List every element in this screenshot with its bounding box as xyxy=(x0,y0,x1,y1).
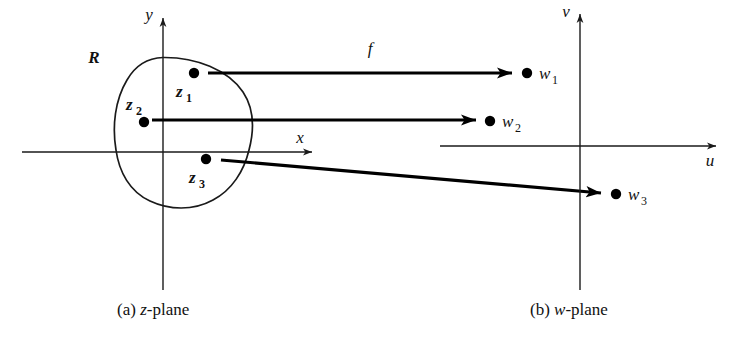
region-R-outline xyxy=(114,57,252,208)
arrow-z3-to-w3 xyxy=(221,160,601,193)
point-w2-label: w 2 xyxy=(502,112,521,135)
point-w3-dot xyxy=(611,189,621,199)
svg-text:z: z xyxy=(175,82,183,101)
svg-text:z: z xyxy=(188,168,196,187)
svg-text:3: 3 xyxy=(199,177,205,191)
point-z2-label: z 2 xyxy=(125,95,142,118)
w-plane-u-axis-label: u xyxy=(706,151,715,170)
svg-text:(b) w-plane: (b) w-plane xyxy=(530,300,608,319)
point-w3-label: w 3 xyxy=(628,185,647,208)
caption-b-rest: -plane xyxy=(565,300,607,319)
svg-text:(a) z-plane: (a) z-plane xyxy=(117,300,189,319)
svg-text:z: z xyxy=(125,95,133,114)
svg-text:w: w xyxy=(539,64,551,83)
caption-b-italic: w xyxy=(554,300,566,319)
point-w2-dot xyxy=(485,116,495,126)
caption-z-plane: (a) z-plane xyxy=(117,300,189,319)
point-z1-label: z 1 xyxy=(175,82,192,105)
z-plane-x-axis-label: x xyxy=(295,128,304,147)
caption-b-prefix: (b) xyxy=(530,300,554,319)
caption-a-prefix: (a) xyxy=(117,300,140,319)
caption-w-plane: (b) w-plane xyxy=(530,300,608,319)
z-plane-y-axis-label: y xyxy=(143,5,153,24)
region-R-label: R xyxy=(87,48,99,67)
point-z3-dot xyxy=(201,154,211,164)
svg-text:w: w xyxy=(628,185,640,204)
svg-text:2: 2 xyxy=(515,121,521,135)
point-z1-dot xyxy=(189,68,199,78)
complex-mapping-figure: x y R z 1 z 2 z 3 f xyxy=(0,0,735,340)
point-w1-dot xyxy=(522,68,532,78)
w-plane-v-axis-label: v xyxy=(562,2,570,21)
point-z3-label: z 3 xyxy=(188,168,205,191)
svg-text:2: 2 xyxy=(136,104,142,118)
svg-text:3: 3 xyxy=(641,194,647,208)
point-w1-label: w 1 xyxy=(539,64,558,87)
svg-text:1: 1 xyxy=(186,91,192,105)
point-z2-dot xyxy=(139,117,149,127)
mapping-function-label: f xyxy=(368,39,375,58)
z-plane-group: x y R z 1 z 2 z 3 xyxy=(22,5,312,290)
caption-a-rest: -plane xyxy=(147,300,189,319)
w-plane-group: u v w 1 w 2 w 3 xyxy=(440,2,716,290)
svg-text:w: w xyxy=(502,112,514,131)
mapping-arrows-group: f xyxy=(152,39,601,193)
svg-text:1: 1 xyxy=(552,73,558,87)
